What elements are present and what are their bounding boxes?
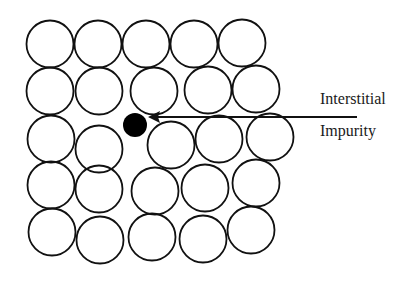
host-atom (196, 116, 243, 163)
host-atom (185, 67, 232, 114)
host-atom (219, 20, 266, 67)
host-atom (180, 216, 227, 263)
host-atom (131, 68, 178, 115)
host-atom (182, 165, 229, 212)
host-atom (171, 21, 218, 68)
lattice-diagram (0, 0, 420, 288)
host-atom (233, 160, 280, 207)
host-atoms (27, 20, 294, 264)
host-atom (76, 68, 123, 115)
host-atom (29, 209, 76, 256)
host-atom (75, 21, 122, 68)
host-atom (123, 21, 170, 68)
interstitial-impurity-atom (123, 113, 147, 137)
label-interstitial: Interstitial (320, 90, 386, 108)
host-atom (148, 122, 195, 169)
host-atom (27, 21, 74, 68)
host-atom (27, 68, 74, 115)
host-atom (77, 217, 124, 264)
host-atom (233, 66, 280, 113)
host-atom (228, 207, 275, 254)
host-atom (28, 116, 75, 163)
host-atom (129, 214, 176, 261)
host-atom (132, 168, 179, 215)
host-atom (247, 114, 294, 161)
label-impurity: Impurity (320, 122, 376, 140)
host-atom (28, 162, 75, 209)
